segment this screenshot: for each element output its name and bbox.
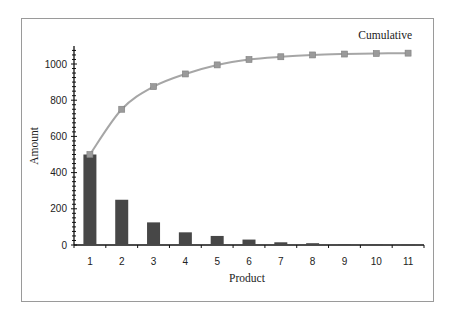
bar [179,232,192,245]
x-tick-label: 6 [246,256,252,267]
cumulative-line-series [87,50,411,157]
square-marker-icon [182,71,188,77]
x-tick-label: 2 [119,256,125,267]
square-marker-icon [246,56,252,62]
cumulative-annotation: Cumulative [358,29,412,41]
x-tick-label: 7 [278,256,284,267]
bar [274,242,287,245]
square-marker-icon [310,52,316,58]
bar [115,200,128,245]
y-tick-label: 400 [50,167,67,178]
bar [83,155,96,246]
bar-series [83,155,414,246]
y-tick-label: 1000 [45,59,68,70]
pareto-chart: 02004006008001000 1234567891011 Product … [0,0,453,321]
square-marker-icon [341,51,347,57]
square-marker-icon [119,106,125,112]
x-axis-title: Product [229,272,266,284]
square-marker-icon [278,54,284,60]
x-tick-label: 4 [183,256,189,267]
x-tick-label: 9 [342,256,348,267]
bar [370,244,383,245]
bar [211,236,224,245]
x-tick-label: 5 [214,256,220,267]
y-axis: 02004006008001000 [45,46,77,251]
bar [243,240,256,245]
bar [402,245,415,246]
y-axis-title: Amount [28,126,40,165]
x-tick-label: 11 [403,256,414,267]
x-tick-label: 1 [87,256,93,267]
x-tick-label: 8 [310,256,316,267]
square-marker-icon [214,62,220,68]
x-tick-label: 3 [151,256,157,267]
square-marker-icon [405,50,411,56]
y-tick-label: 600 [50,131,67,142]
x-axis: 1234567891011 [74,245,424,267]
bar [338,244,351,245]
square-marker-icon [87,152,93,158]
y-tick-label: 800 [50,95,67,106]
y-tick-label: 200 [50,203,67,214]
square-marker-icon [373,51,379,57]
bar [306,243,319,245]
y-tick-label: 0 [61,240,67,251]
bar [147,222,160,245]
square-marker-icon [151,84,157,90]
x-tick-label: 10 [371,256,383,267]
